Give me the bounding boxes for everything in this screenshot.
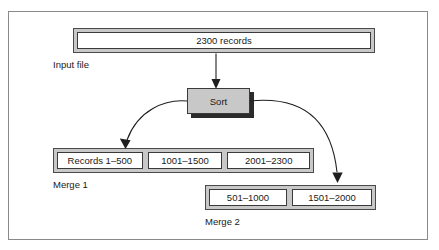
merge1-run-1: Records 1–500 — [57, 152, 143, 169]
merge1-run-2: 1001–1500 — [148, 152, 223, 169]
merge2-run-2: 1501–2000 — [292, 189, 372, 206]
sort-merge-diagram: 2300 records Input file Sort Records 1–5… — [0, 0, 439, 250]
merge2-run-1: 501–1000 — [209, 189, 287, 206]
merge2-caption: Merge 2 — [205, 217, 240, 227]
merge1-caption: Merge 1 — [53, 180, 88, 190]
input-file-box: 2300 records — [73, 28, 375, 53]
input-file-record-count: 2300 records — [77, 32, 371, 49]
input-file-caption: Input file — [53, 60, 89, 70]
merge1-box: Records 1–500 1001–1500 2001–2300 — [53, 148, 314, 173]
merge1-run-3: 2001–2300 — [227, 152, 310, 169]
sort-process-box: Sort — [187, 88, 250, 114]
merge2-box: 501–1000 1501–2000 — [205, 185, 376, 210]
